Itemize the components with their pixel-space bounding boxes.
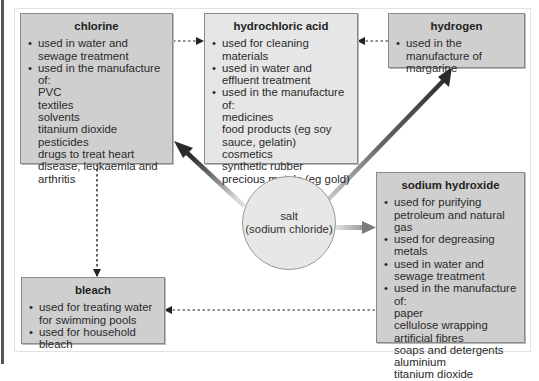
sub-item: medicines: [222, 111, 350, 123]
box-sodium-hydroxide: sodium hydroxide used for purifying petr…: [376, 172, 525, 343]
sub-item: cellulose wrapping: [394, 319, 517, 331]
box-title: hydrochloric acid: [212, 20, 350, 32]
sub-item: aluminium: [394, 356, 517, 368]
bullet-item: used for cleaning materials: [212, 37, 350, 62]
box-title: chlorine: [28, 20, 165, 32]
sub-item: PVC: [38, 86, 165, 98]
box-title: sodium hydroxide: [384, 179, 517, 191]
salt-sublabel: (sodium chloride): [245, 223, 332, 236]
bullet-item: used for household bleach: [29, 326, 157, 351]
salt-label: salt: [280, 210, 298, 223]
bullet-item: used in the manufacture of margarine: [396, 37, 517, 74]
bullet-item: used in water and sewage treatment: [384, 258, 517, 283]
bullet-item: used in water and sewage treatment: [28, 37, 165, 62]
bullet-list: used in water and sewage treatment used …: [28, 37, 165, 185]
box-bleach: bleach used for treating water for swimm…: [21, 277, 165, 344]
sub-item: soaps and detergents: [394, 344, 517, 356]
sub-item: artificial fibres: [394, 332, 517, 344]
sub-item: synthetic rubber: [222, 160, 350, 172]
box-chlorine: chlorine used in water and sewage treatm…: [20, 13, 173, 164]
sub-item: food products (eg soy sauce, gelatin): [222, 123, 350, 148]
sub-item: drugs to treat heart disease, leukaemia …: [38, 148, 165, 185]
sub-item: solvents: [38, 111, 165, 123]
bullet-item: used in the manufacture of: paper cellul…: [384, 282, 517, 380]
bullet-item: used in water and effluent treatment: [212, 62, 350, 87]
salt-node: salt (sodium chloride): [242, 176, 336, 270]
box-hydrochloric-acid: hydrochloric acid used for cleaning mate…: [204, 13, 358, 164]
sub-item: pesticides: [38, 136, 165, 148]
box-hydrogen: hydrogen used in the manufacture of marg…: [388, 13, 525, 68]
sub-item: textiles: [38, 99, 165, 111]
box-title: bleach: [29, 284, 157, 296]
box-title: hydrogen: [396, 20, 517, 32]
bullet-item: used in the manufacture of: PVC textiles…: [28, 62, 165, 185]
arrow-salt-to-sodium-hydroxide: [334, 221, 376, 234]
bullet-item: used in the manufacture of: medicines fo…: [212, 86, 350, 184]
sub-item: paper: [394, 307, 517, 319]
bullet-item: used for degreasing metals: [384, 233, 517, 258]
sub-item: titanium dioxide: [38, 123, 165, 135]
sub-item: titanium dioxide: [394, 368, 517, 380]
bullet-list: used for cleaning materials used in wate…: [212, 37, 350, 185]
bullet-list: used for treating water for swimming poo…: [29, 301, 157, 350]
sub-item: cosmetics: [222, 148, 350, 160]
bullet-list: used for purifying petroleum and natural…: [384, 196, 517, 380]
bullet-item: used for purifying petroleum and natural…: [384, 196, 517, 233]
bullet-item: used for treating water for swimming poo…: [29, 301, 157, 326]
bullet-list: used in the manufacture of margarine: [396, 37, 517, 74]
